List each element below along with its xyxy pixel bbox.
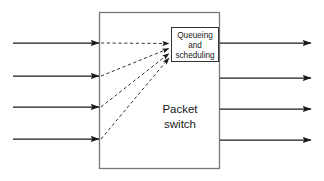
queue-box-label-line-3: scheduling [175, 51, 215, 60]
packet-switch-diagram: Queueing and scheduling Packet switch [0, 0, 324, 181]
queue-box-label-line-1: Queueing [177, 31, 213, 40]
queue-box-label-line-2: and [188, 41, 202, 50]
packet-switch-label-line-2: switch [164, 118, 196, 130]
packet-switch-label-line-1: Packet [162, 103, 198, 115]
diagram-canvas: Queueing and scheduling Packet switch [0, 0, 324, 181]
